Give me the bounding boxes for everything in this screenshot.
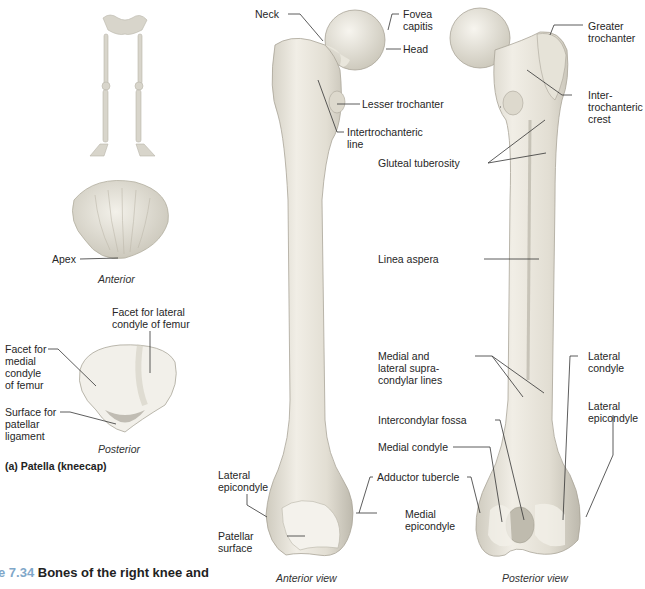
- caption-femur-anterior: Anterior view: [276, 572, 337, 584]
- label-medial-epicondyle: Medial epicondyle: [405, 508, 455, 532]
- caption-patella-posterior: Posterior: [98, 443, 140, 455]
- label-supracondylar-lines: Medial and lateral supra- condylar lines: [378, 350, 442, 386]
- figure-caption: e 7.34 Bones of the right knee and: [0, 565, 209, 580]
- label-linea-aspera: Linea aspera: [378, 253, 439, 265]
- femur-anterior-image: [266, 10, 385, 556]
- label-lateral-condyle: Lateral condyle: [588, 350, 624, 374]
- patella-posterior-image: [79, 345, 176, 432]
- label-apex: Apex: [52, 253, 76, 265]
- subfigure-a-title: (a) Patella (kneecap): [5, 460, 107, 472]
- label-patellar-surface: Patellar surface: [218, 530, 254, 554]
- label-fovea-capitis: Fovea capitis: [403, 8, 433, 32]
- label-lateral-epicondyle-anterior: Lateral epicondyle: [218, 469, 268, 493]
- label-facet-medial-condyle: Facet for medial condyle of femur: [5, 343, 46, 391]
- label-intertrochanteric-crest: Inter- trochanteric crest: [588, 89, 643, 125]
- patella-anterior-image: [72, 180, 168, 258]
- label-adductor-tubercle: Adductor tubercle: [377, 471, 459, 483]
- figure-title: Bones of the right knee and: [38, 565, 209, 580]
- label-facet-lateral-condyle: Facet for lateral condyle of femur: [112, 306, 190, 330]
- label-medial-condyle: Medial condyle: [378, 441, 448, 453]
- label-intertrochanteric-line: Intertrochanteric line: [347, 126, 423, 150]
- label-lateral-epicondyle-posterior: Lateral epicondyle: [588, 400, 638, 424]
- skeleton-legs-icon: [90, 15, 155, 156]
- caption-patella-anterior: Anterior: [98, 273, 135, 285]
- label-neck: Neck: [255, 8, 279, 20]
- label-lesser-trochanter: Lesser trochanter: [362, 98, 444, 110]
- caption-femur-posterior: Posterior view: [502, 572, 568, 584]
- femur-posterior-image: [450, 8, 580, 556]
- anatomy-artwork: [0, 0, 645, 589]
- figure-number: e 7.34: [0, 565, 34, 580]
- label-gluteal-tuberosity: Gluteal tuberosity: [378, 157, 460, 169]
- label-surface-patellar-ligament: Surface for patellar ligament: [5, 406, 56, 442]
- leader-apex: [80, 258, 118, 259]
- label-head: Head: [403, 43, 428, 55]
- label-greater-trochanter: Greater trochanter: [588, 20, 635, 44]
- label-intercondylar-fossa: Intercondylar fossa: [378, 414, 467, 426]
